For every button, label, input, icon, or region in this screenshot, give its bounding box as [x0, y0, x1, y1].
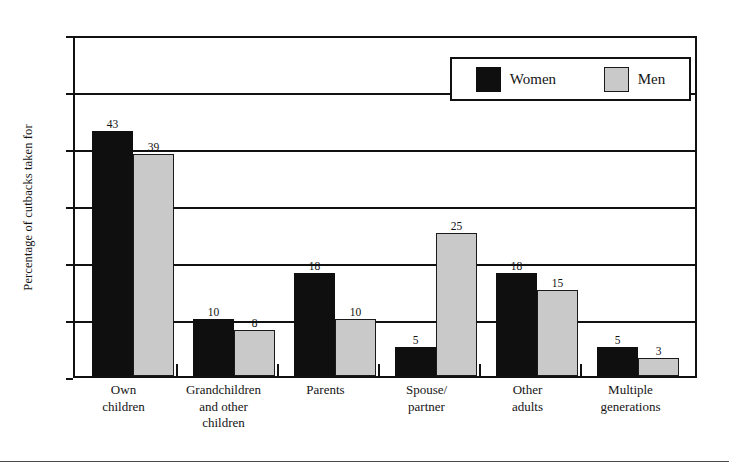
- cat-line-2: generations: [573, 399, 688, 416]
- bar-men-own-children[interactable]: 39: [133, 154, 174, 376]
- cat-line-2: and other: [167, 399, 280, 416]
- x-group-tick-5: [580, 364, 582, 376]
- legend: Women Men: [450, 57, 691, 101]
- bar-women-parents[interactable]: 18: [294, 273, 335, 376]
- y-tick-mark-30: [66, 207, 73, 209]
- bar-men-grandchildren[interactable]: 8: [234, 330, 275, 376]
- cat-line-2: partner: [376, 399, 477, 416]
- bar-value-women-parents: 18: [309, 261, 321, 273]
- x-group-tick-4: [479, 364, 481, 376]
- bar-value-women-own-children: 43: [107, 119, 119, 131]
- footer-divider: [0, 461, 729, 462]
- bar-women-own-children[interactable]: 43: [92, 131, 133, 376]
- legend-swatch-women-icon: [476, 67, 501, 92]
- x-category-label-other-adults: Other adults: [477, 382, 578, 415]
- x-category-label-grandchildren: Grandchildren and other children: [167, 382, 280, 432]
- gridline-40: [75, 150, 695, 152]
- x-group-tick-3: [378, 364, 380, 376]
- bar-value-men-grandchildren: 8: [252, 318, 258, 330]
- bar-value-women-multiple-generations: 5: [615, 335, 621, 347]
- x-category-label-multiple-generations: Multiple generations: [573, 382, 688, 415]
- bar-women-grandchildren[interactable]: 10: [193, 319, 234, 376]
- y-tick-mark-0: [66, 378, 73, 380]
- cat-line-1: Spouse/: [376, 382, 477, 399]
- y-tick-mark-40: [66, 150, 73, 152]
- legend-swatch-men-icon: [604, 67, 629, 92]
- cat-line-1: Other: [477, 382, 578, 399]
- y-axis-title: Percentage of cutbacks taken for: [21, 33, 36, 383]
- bar-value-men-parents: 10: [350, 307, 362, 319]
- bar-men-multiple-generations[interactable]: 3: [638, 358, 679, 376]
- bar-value-men-own-children: 39: [148, 142, 160, 154]
- x-group-tick-2: [277, 364, 279, 376]
- y-tick-mark-60: [66, 36, 73, 38]
- x-group-tick-1: [176, 364, 178, 376]
- y-tick-mark-10: [66, 321, 73, 323]
- cat-line-3: children: [167, 415, 280, 432]
- cat-line-2: adults: [477, 399, 578, 416]
- bar-value-men-other-adults: 15: [552, 278, 564, 290]
- cat-line-1: Parents: [275, 382, 376, 399]
- cat-line-2: children: [73, 399, 174, 416]
- cat-line-1: Grandchildren: [167, 382, 280, 399]
- y-tick-mark-50: [66, 93, 73, 95]
- bar-value-men-spouse-partner: 25: [451, 221, 463, 233]
- bar-value-women-grandchildren: 10: [208, 307, 220, 319]
- cat-line-1: Own: [73, 382, 174, 399]
- bar-value-women-other-adults: 18: [511, 261, 523, 273]
- x-category-label-parents: Parents: [275, 382, 376, 399]
- bar-chart-figure: Percentage of cutbacks taken for 60 50 4…: [0, 0, 729, 475]
- x-category-label-spouse-partner: Spouse/ partner: [376, 382, 477, 415]
- y-tick-mark-20: [66, 264, 73, 266]
- legend-label-women: Women: [510, 72, 556, 87]
- bar-women-spouse-partner[interactable]: 5: [395, 347, 436, 376]
- bar-value-men-multiple-generations: 3: [656, 346, 662, 358]
- bar-men-parents[interactable]: 10: [335, 319, 376, 376]
- bar-value-women-spouse-partner: 5: [413, 335, 419, 347]
- bar-men-spouse-partner[interactable]: 25: [436, 233, 477, 376]
- bar-women-other-adults[interactable]: 18: [496, 273, 537, 376]
- cat-line-1: Multiple: [573, 382, 688, 399]
- bar-men-other-adults[interactable]: 15: [537, 290, 578, 376]
- legend-entry-men[interactable]: Men: [604, 67, 666, 92]
- legend-entry-women[interactable]: Women: [476, 67, 556, 92]
- legend-label-men: Men: [638, 72, 666, 87]
- x-category-label-own-children: Own children: [73, 382, 174, 415]
- bar-women-multiple-generations[interactable]: 5: [597, 347, 638, 376]
